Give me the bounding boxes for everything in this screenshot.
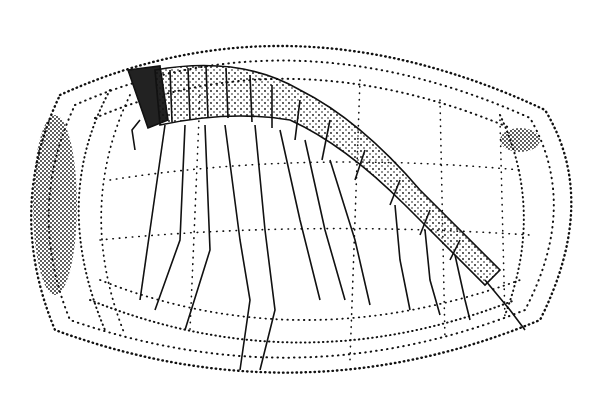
left-opening [33,115,77,295]
stipple-illustration [0,0,591,412]
illustration-canvas [0,0,591,412]
